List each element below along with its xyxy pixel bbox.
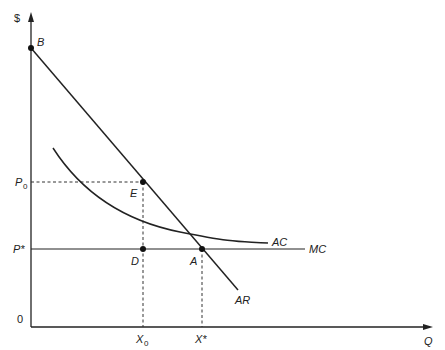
svg-text:0: 0 <box>144 339 149 348</box>
label-ac: AC <box>271 236 287 248</box>
label-xstar: X* <box>194 333 207 345</box>
label-p0: P 0 <box>15 176 28 191</box>
guide-lines <box>31 182 202 327</box>
label-d: D <box>131 255 139 267</box>
label-mc: MC <box>309 243 326 255</box>
svg-text:P: P <box>15 176 23 188</box>
economics-diagram: $ Q 0 B E D A AC MC AR P 0 P* X 0 X* <box>0 0 445 350</box>
label-x0: X 0 <box>135 333 149 348</box>
ar-curve <box>31 48 238 290</box>
label-b: B <box>37 36 44 48</box>
y-axis-label: $ <box>14 12 20 24</box>
y-axis-arrow-icon <box>28 12 34 22</box>
label-e: E <box>130 187 138 199</box>
point-e <box>140 179 146 185</box>
label-pstar: P* <box>13 243 25 255</box>
point-b <box>28 45 34 51</box>
label-a: A <box>189 255 197 267</box>
point-d <box>140 246 146 252</box>
svg-text:X: X <box>135 333 144 345</box>
origin-label: 0 <box>17 313 23 325</box>
ac-curve <box>53 148 268 243</box>
x-axis-arrow-icon <box>423 324 433 330</box>
x-axis-label: Q <box>424 335 433 347</box>
svg-text:0: 0 <box>23 182 28 191</box>
point-a <box>199 246 205 252</box>
label-ar: AR <box>234 294 250 306</box>
